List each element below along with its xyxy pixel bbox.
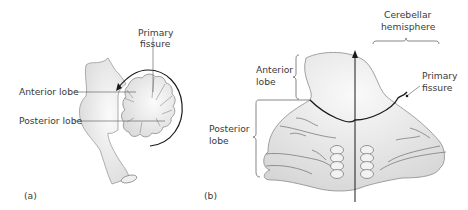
label-anterior-lobe-b-2: lobe	[256, 76, 276, 87]
brace-cerebellar-hemisphere	[373, 38, 439, 44]
fissure-marker	[406, 95, 409, 98]
label-primary-fissure-a-2: fissure	[140, 38, 171, 49]
panel-label-a: (a)	[24, 190, 37, 201]
label-posterior-lobe-a: Posterior lobe	[19, 115, 83, 126]
label-primary-fissure-b: Primary	[422, 70, 458, 81]
panel-label-b: (b)	[204, 190, 217, 201]
panel-b-dorsal-view: Cerebellar hemisphere Anterior lobe Post…	[204, 9, 458, 202]
panel-a-sagittal-view: Primary fissure Anterior lobe Posterior …	[19, 27, 182, 201]
label-posterior-lobe-b: Posterior	[209, 123, 250, 134]
arrowhead-up-icon	[352, 50, 358, 58]
label-posterior-lobe-b-2: lobe	[209, 135, 229, 146]
label-primary-fissure-a: Primary	[138, 27, 174, 38]
cerebellum-diagram: Primary fissure Anterior lobe Posterior …	[0, 0, 468, 210]
label-anterior-lobe-a: Anterior lobe	[19, 86, 79, 97]
label-primary-fissure-b-2: fissure	[422, 82, 453, 93]
brace-anterior-lobe	[293, 55, 299, 99]
label-cerebellar-hemisphere: Cerebellar	[384, 9, 432, 20]
label-anterior-lobe-b: Anterior	[256, 64, 293, 75]
cerebellum-folia	[121, 74, 175, 137]
label-cerebellar-hemisphere-2: hemisphere	[381, 21, 436, 32]
